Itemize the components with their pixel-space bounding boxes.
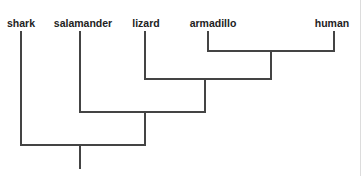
branch-salamander-amniotes	[80, 32, 205, 112]
right-border	[360, 0, 361, 176]
tree-lines	[0, 0, 362, 176]
branch-armadillo-human	[208, 32, 334, 51]
branch-shark-tetrapods	[21, 32, 145, 145]
